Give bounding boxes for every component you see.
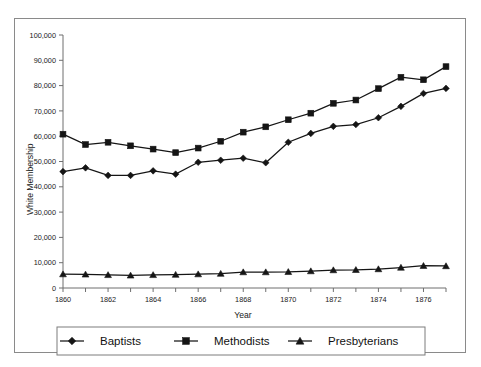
marker-square bbox=[83, 142, 89, 148]
marker-diamond bbox=[127, 172, 134, 179]
marker-square bbox=[376, 86, 382, 92]
marker-square bbox=[263, 124, 269, 130]
series-baptists bbox=[60, 85, 450, 179]
legend-label: Presbyterians bbox=[328, 335, 399, 347]
x-tick-label: 1874 bbox=[370, 295, 386, 304]
y-tick-label: 20,000 bbox=[34, 233, 56, 242]
chart-figure: 010,00020,00030,00040,00050,00060,00070,… bbox=[0, 0, 481, 367]
y-axis-title: White Membership bbox=[25, 143, 35, 215]
y-tick-label: 70,000 bbox=[34, 107, 56, 116]
y-tick-label: 60,000 bbox=[34, 132, 56, 141]
y-tick-label: 90,000 bbox=[34, 56, 56, 65]
y-tick-label: 100,000 bbox=[30, 31, 56, 40]
marker-square bbox=[443, 64, 449, 70]
marker-diamond bbox=[443, 85, 450, 92]
x-axis-tick-labels: 186018621864186618681870187218741876 bbox=[55, 295, 432, 304]
marker-diamond bbox=[308, 130, 315, 137]
x-axis-tickmarks bbox=[63, 288, 446, 292]
marker-square bbox=[60, 131, 66, 137]
x-tick-label: 1872 bbox=[325, 295, 341, 304]
marker-diamond bbox=[240, 155, 247, 162]
marker-diamond bbox=[195, 159, 202, 166]
series-presbyterians bbox=[60, 263, 450, 279]
marker-diamond bbox=[217, 157, 224, 164]
x-tick-label: 1862 bbox=[100, 295, 116, 304]
legend-label: Methodists bbox=[214, 335, 270, 347]
x-tick-label: 1876 bbox=[415, 295, 431, 304]
marker-diamond bbox=[375, 114, 382, 121]
series-line bbox=[63, 266, 446, 276]
legend-label: Baptists bbox=[100, 335, 141, 347]
marker-square bbox=[308, 110, 314, 116]
marker-square bbox=[105, 139, 111, 145]
y-tick-label: 80,000 bbox=[34, 81, 56, 90]
marker-diamond bbox=[420, 90, 427, 97]
series-line bbox=[63, 88, 446, 175]
legend-marker-square bbox=[183, 338, 190, 345]
marker-square bbox=[398, 74, 404, 80]
marker-square bbox=[330, 100, 336, 106]
marker-diamond bbox=[105, 172, 112, 179]
axis-lines bbox=[63, 35, 446, 288]
y-tick-label: 10,000 bbox=[34, 258, 56, 267]
y-tick-label: 0 bbox=[52, 284, 56, 293]
marker-square bbox=[150, 146, 156, 152]
y-tick-label: 30,000 bbox=[34, 208, 56, 217]
x-tick-label: 1868 bbox=[235, 295, 251, 304]
marker-diamond bbox=[82, 165, 89, 172]
y-tick-label: 40,000 bbox=[34, 182, 56, 191]
x-tick-label: 1866 bbox=[190, 295, 206, 304]
chart-legend: BaptistsMethodistsPresbyterians bbox=[57, 327, 425, 355]
y-axis-tickmarks bbox=[59, 35, 63, 288]
marker-square bbox=[128, 143, 134, 149]
x-tick-label: 1864 bbox=[145, 295, 161, 304]
x-axis-title: Year bbox=[234, 310, 252, 320]
marker-square bbox=[240, 129, 246, 135]
line-chart: 010,00020,00030,00040,00050,00060,00070,… bbox=[0, 0, 481, 367]
marker-diamond bbox=[330, 123, 337, 130]
marker-diamond bbox=[150, 168, 157, 175]
x-tick-label: 1870 bbox=[280, 295, 296, 304]
marker-diamond bbox=[60, 168, 67, 175]
series-line bbox=[63, 67, 446, 153]
x-tick-label: 1860 bbox=[55, 295, 71, 304]
marker-diamond bbox=[398, 103, 405, 110]
marker-square bbox=[421, 77, 427, 83]
marker-square bbox=[173, 150, 179, 156]
marker-diamond bbox=[172, 171, 179, 178]
y-tick-label: 50,000 bbox=[34, 157, 56, 166]
marker-square bbox=[353, 97, 359, 103]
marker-diamond bbox=[353, 121, 360, 128]
marker-square bbox=[218, 138, 224, 144]
series-methodists bbox=[60, 64, 449, 156]
data-series bbox=[60, 64, 450, 278]
marker-square bbox=[195, 145, 201, 151]
marker-square bbox=[285, 117, 291, 123]
